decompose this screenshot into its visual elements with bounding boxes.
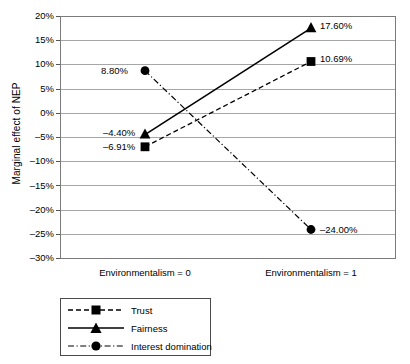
legend-item-interest-domination: Interest domination — [65, 337, 210, 355]
y-axis-ticks — [56, 17, 60, 259]
point-label-interest-env0: 8.80% — [101, 66, 128, 76]
legend-key-trust — [65, 301, 127, 319]
legend-item-fairness: Fairness — [65, 319, 210, 337]
data-point-trust-env0 — [141, 142, 150, 151]
legend-label-fairness: Fairness — [127, 323, 167, 334]
x-tick-env-0: Environmentalism = 0 — [85, 267, 205, 278]
data-point-interest-env1 — [307, 225, 316, 234]
x-tick-env-1: Environmentalism = 1 — [251, 267, 371, 278]
point-label-fairness-env1: 17.60% — [320, 21, 352, 31]
legend-item-trust: Trust — [65, 301, 210, 319]
legend-label-interest-domination: Interest domination — [127, 341, 212, 352]
point-label-interest-env1: –24.00% — [320, 225, 358, 235]
point-label-trust-env0: –6.91% — [103, 142, 135, 152]
point-label-trust-env1: 10.69% — [320, 54, 352, 64]
legend-label-trust: Trust — [127, 305, 152, 316]
data-point-interest-env0 — [141, 66, 150, 75]
legend-marker-circle — [91, 341, 100, 350]
chart-figure: Marginal effect of NEP 20% 15% 10% 5% 0%… — [0, 0, 410, 364]
legend-key-interest-domination — [65, 337, 127, 355]
legend-key-fairness — [65, 319, 127, 337]
chart-legend: Trust Fairness Interest domination — [60, 298, 211, 356]
point-label-fairness-env0: –4.40% — [103, 128, 135, 138]
data-point-trust-env1 — [307, 57, 316, 66]
legend-marker-square — [92, 306, 101, 315]
